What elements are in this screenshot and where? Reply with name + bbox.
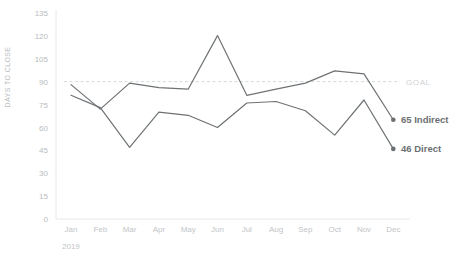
endpoint-dot-indirect bbox=[391, 118, 396, 123]
x-tick-nov: Nov bbox=[357, 225, 371, 234]
y-axis-label: DAYS TO CLOSE bbox=[4, 47, 11, 108]
y-tick-120: 120 bbox=[35, 32, 49, 41]
y-tick-60: 60 bbox=[39, 124, 48, 133]
x-axis-year-label: 2019 bbox=[62, 242, 80, 251]
x-tick-oct: Oct bbox=[328, 225, 341, 234]
y-tick-105: 105 bbox=[35, 55, 49, 64]
x-tick-sep: Sep bbox=[298, 225, 313, 234]
series-label-indirect: 65 Indirect bbox=[401, 114, 449, 125]
x-tick-aug: Aug bbox=[269, 225, 283, 234]
x-axis-ticks: Jan Feb Mar Apr May Jun Jul Aug Sep Oct … bbox=[65, 225, 401, 234]
x-tick-mar: Mar bbox=[123, 225, 137, 234]
x-tick-feb: Feb bbox=[93, 225, 107, 234]
x-tick-jul: Jul bbox=[242, 225, 252, 234]
series-line-indirect bbox=[71, 36, 393, 120]
chart-container: DAYS TO CLOSE 135 120 105 90 75 60 45 30… bbox=[0, 0, 466, 263]
y-tick-30: 30 bbox=[39, 169, 48, 178]
series-line-direct bbox=[71, 95, 393, 149]
x-tick-dec: Dec bbox=[386, 225, 400, 234]
endpoint-dot-direct bbox=[391, 147, 396, 152]
y-tick-45: 45 bbox=[39, 146, 48, 155]
goal-label: GOAL bbox=[406, 78, 431, 87]
series-label-direct: 46 Direct bbox=[401, 143, 442, 154]
x-tick-apr: Apr bbox=[153, 225, 166, 234]
y-axis-ticks: 135 120 105 90 75 60 45 30 15 0 bbox=[35, 9, 49, 224]
y-tick-135: 135 bbox=[35, 9, 49, 18]
x-tick-jan: Jan bbox=[65, 225, 78, 234]
x-tick-may: May bbox=[181, 225, 196, 234]
y-tick-15: 15 bbox=[39, 192, 48, 201]
line-chart: DAYS TO CLOSE 135 120 105 90 75 60 45 30… bbox=[0, 0, 466, 263]
y-tick-90: 90 bbox=[39, 78, 48, 87]
y-tick-75: 75 bbox=[39, 101, 48, 110]
x-tick-jun: Jun bbox=[211, 225, 224, 234]
y-tick-0: 0 bbox=[44, 215, 49, 224]
